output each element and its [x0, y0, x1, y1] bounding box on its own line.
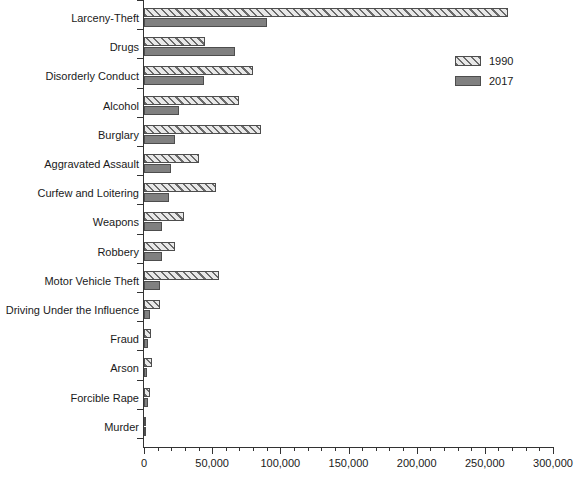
bar-1990-fraud — [144, 329, 151, 338]
x-tick-minor — [430, 448, 431, 451]
y-tick — [137, 58, 143, 59]
x-tick-minor — [171, 448, 172, 451]
bar-1990-weapons — [144, 212, 184, 221]
legend-item-2017: 2017 — [455, 71, 565, 91]
x-tick-minor — [239, 448, 240, 451]
bar-2017-aggravated-assault — [144, 164, 171, 173]
bar-1990-disorderly-conduct — [144, 66, 253, 75]
y-tick — [137, 88, 143, 89]
bar-1990-forcible-rape — [144, 388, 150, 397]
y-axis-label: Curfew and Loitering — [37, 187, 139, 199]
x-tick-minor — [444, 448, 445, 451]
x-tick-minor — [362, 448, 363, 451]
y-tick — [137, 263, 143, 264]
legend-item-1990: 1990 — [455, 51, 565, 71]
x-axis-label: 150,000 — [329, 457, 369, 469]
x-tick-minor — [158, 448, 159, 451]
bar-2017-alcohol — [144, 106, 179, 115]
y-axis-label: Larceny-Theft — [71, 12, 139, 24]
y-axis-label: Forcible Rape — [71, 392, 139, 404]
y-axis-label: Driving Under the Influence — [6, 304, 139, 316]
bar-2017-robbery — [144, 252, 162, 261]
x-tick-minor — [389, 448, 390, 451]
bar-2017-motor-vehicle-theft — [144, 281, 160, 290]
y-axis-label: Alcohol — [103, 100, 139, 112]
y-tick — [137, 204, 143, 205]
y-tick — [137, 292, 143, 293]
bar-2017-weapons — [144, 222, 162, 231]
y-axis-label: Weapons — [93, 216, 139, 228]
x-tick-minor — [253, 448, 254, 451]
bar-1990-aggravated-assault — [144, 154, 199, 163]
chart-legend: 19902017 — [455, 51, 565, 91]
y-axis-labels: Larceny-TheftDrugsDisorderly ConductAlco… — [0, 0, 139, 447]
x-tick-minor — [471, 448, 472, 451]
x-tick-minor — [185, 448, 186, 451]
legend-swatch-2017 — [455, 76, 481, 86]
x-axis-label: 0 — [141, 457, 147, 469]
y-tick — [137, 0, 143, 1]
x-tick-minor — [539, 448, 540, 451]
legend-label: 1990 — [489, 55, 513, 67]
x-tick-minor — [226, 448, 227, 451]
legend-label: 2017 — [489, 75, 513, 87]
y-tick — [137, 438, 143, 439]
bar-1990-motor-vehicle-theft — [144, 271, 219, 280]
y-tick — [137, 117, 143, 118]
bar-2017-driving-under-the-influence — [144, 310, 150, 319]
x-tick-minor — [498, 448, 499, 451]
x-tick-minor — [403, 448, 404, 451]
y-axis-label: Burglary — [98, 129, 139, 141]
x-tick-major — [212, 448, 213, 454]
bar-1990-alcohol — [144, 96, 239, 105]
bar-2017-forcible-rape — [144, 398, 148, 407]
x-tick-minor — [335, 448, 336, 451]
y-axis-label: Aggravated Assault — [44, 158, 139, 170]
y-tick — [137, 175, 143, 176]
x-tick-major — [349, 448, 350, 454]
y-axis-label: Motor Vehicle Theft — [44, 275, 139, 287]
y-tick — [137, 234, 143, 235]
bar-1990-arson — [144, 358, 152, 367]
bar-1990-robbery — [144, 242, 175, 251]
x-axis-label: 100,000 — [260, 457, 300, 469]
x-tick-minor — [294, 448, 295, 451]
bar-chart: Larceny-TheftDrugsDisorderly ConductAlco… — [0, 0, 585, 490]
x-axis-label: 200,000 — [397, 457, 437, 469]
y-axis-label: Murder — [104, 421, 139, 433]
x-tick-minor — [321, 448, 322, 451]
bar-2017-arson — [144, 368, 147, 377]
bar-2017-disorderly-conduct — [144, 76, 204, 85]
bar-1990-driving-under-the-influence — [144, 300, 160, 309]
bar-2017-drugs — [144, 47, 235, 56]
x-tick-minor — [458, 448, 459, 451]
y-axis-label: Robbery — [97, 246, 139, 258]
y-axis-label: Drugs — [110, 41, 139, 53]
bar-2017-burglary — [144, 135, 175, 144]
y-tick — [137, 350, 143, 351]
y-tick — [137, 380, 143, 381]
y-axis-label: Fraud — [110, 333, 139, 345]
bar-2017-larceny-theft — [144, 18, 267, 27]
x-tick-minor — [267, 448, 268, 451]
bar-1990-burglary — [144, 125, 261, 134]
x-tick-minor — [526, 448, 527, 451]
x-tick-minor — [308, 448, 309, 451]
bar-1990-curfew-and-loitering — [144, 183, 216, 192]
y-tick — [137, 409, 143, 410]
bar-2017-curfew-and-loitering — [144, 193, 169, 202]
y-axis-label: Disorderly Conduct — [45, 70, 139, 82]
x-axis-label: 300,000 — [533, 457, 573, 469]
y-tick — [137, 321, 143, 322]
x-tick-major — [417, 448, 418, 454]
bar-1990-murder — [144, 417, 146, 426]
bar-1990-drugs — [144, 37, 205, 46]
x-tick-major — [553, 448, 554, 454]
x-axis-label: 50,000 — [195, 457, 229, 469]
x-axis-label: 250,000 — [465, 457, 505, 469]
bar-2017-murder — [144, 427, 146, 436]
x-tick-major — [485, 448, 486, 454]
y-axis-label: Arson — [110, 362, 139, 374]
bar-1990-larceny-theft — [144, 8, 508, 17]
x-tick-minor — [512, 448, 513, 451]
